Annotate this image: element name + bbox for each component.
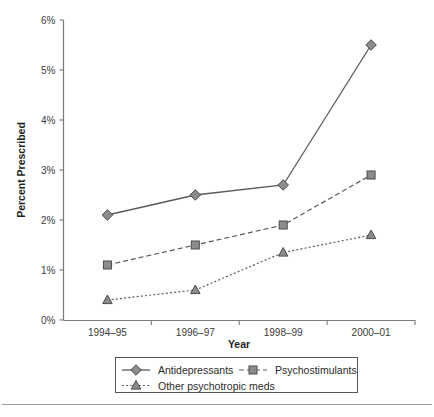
x-tick-label: 1998–99 (264, 327, 303, 338)
data-point-marker (102, 210, 113, 221)
legend-item-label: Antidepressants (158, 364, 233, 376)
series-antidepressants (102, 40, 376, 221)
chart-legend: AntidepressantsPsychostimulantsOther psy… (116, 358, 358, 393)
y-tick-label: 3% (41, 165, 56, 176)
y-tick-label: 4% (41, 115, 56, 126)
legend-item-label: Other psychotropic meds (158, 380, 275, 392)
data-point-marker (367, 171, 375, 179)
data-point-marker (278, 248, 287, 257)
data-point-marker (103, 295, 112, 304)
y-tick-label: 5% (41, 65, 56, 76)
x-tick-label: 1994–95 (88, 327, 127, 338)
y-tick-label: 1% (41, 265, 56, 276)
data-point-marker (191, 285, 200, 294)
y-tick-label: 2% (41, 215, 56, 226)
legend-item-psychostimulants: Psychostimulants (239, 364, 357, 376)
y-tick-label: 6% (41, 15, 56, 26)
x-tick-label: 2000–01 (352, 327, 391, 338)
x-axis-ticks: 1994–951996–971998–992000–01 (88, 320, 415, 338)
legend-item-label: Psychostimulants (275, 364, 357, 376)
series-line (107, 235, 371, 300)
data-point-marker (278, 180, 289, 191)
data-point-marker (190, 190, 201, 201)
y-tick-label: 0% (41, 315, 56, 326)
series-line (107, 175, 371, 265)
series-group (102, 40, 376, 304)
y-axis-ticks: 0%1%2%3%4%5%6% (41, 15, 63, 326)
series-psychostimulants (103, 171, 375, 269)
x-tick-label: 1996–97 (176, 327, 215, 338)
data-point-marker (366, 230, 375, 239)
series-other-psychotropic-meds (103, 230, 376, 304)
chart-figure: 0%1%2%3%4%5%6% 1994–951996–971998–992000… (0, 0, 434, 417)
data-point-marker (366, 40, 377, 51)
line-chart: 0%1%2%3%4%5%6% 1994–951996–971998–992000… (0, 0, 434, 417)
data-point-marker (279, 221, 287, 229)
y-axis-title: Percent Prescribed (15, 122, 27, 218)
data-point-marker (191, 241, 199, 249)
x-axis-title: Year (228, 338, 250, 350)
data-point-marker (249, 366, 257, 374)
series-line (107, 45, 371, 215)
data-point-marker (103, 261, 111, 269)
